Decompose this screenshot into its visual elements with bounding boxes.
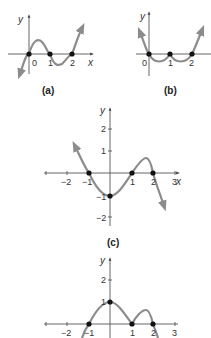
tick-label: 3: [172, 328, 177, 338]
tick-label: 1: [130, 328, 135, 338]
graph-a: 0 1 2 x y (a): [8, 14, 94, 96]
point: [107, 193, 112, 198]
tick-label: 2: [189, 58, 194, 68]
panel-label-c: (c): [107, 237, 119, 248]
tick-label: −2: [61, 177, 71, 187]
point: [107, 299, 112, 304]
tick-label: 2: [70, 58, 75, 68]
point: [150, 170, 155, 175]
tick-label: −2: [61, 328, 71, 338]
y-axis-label: y: [17, 14, 24, 25]
tick-label: 2: [101, 124, 106, 134]
point: [167, 51, 172, 56]
tick-label: −1: [96, 192, 106, 202]
y-axis-label: y: [99, 255, 106, 266]
y-axis-label: y: [139, 11, 146, 22]
point: [86, 170, 91, 175]
tick-label: 2: [101, 275, 106, 285]
point: [129, 321, 134, 326]
point: [26, 51, 31, 56]
tick-label: −1: [84, 328, 94, 338]
point: [86, 321, 91, 326]
point: [129, 170, 134, 175]
panel-label-a: (a): [42, 85, 54, 96]
point: [69, 51, 74, 56]
tick-label: 1: [48, 58, 53, 68]
tick-label: 2: [151, 328, 156, 338]
point: [47, 51, 52, 56]
tick-label: −1: [82, 177, 92, 187]
point: [150, 321, 155, 326]
y-axis-label: y: [99, 105, 106, 116]
point: [189, 51, 194, 56]
tick-label: 1: [168, 58, 173, 68]
tick-label: 1: [101, 146, 106, 156]
graph-c: −2 −1 1 2 3 x 2 1 −1 −2 y (c): [44, 105, 182, 248]
figure: 0 1 2 x y (a) 0 1 2 y (b) −2 −1 1: [0, 0, 211, 338]
tick-label: 1: [101, 297, 106, 307]
graph-b: 0 1 2 y (b): [136, 11, 211, 96]
tick-label: 2: [151, 177, 156, 187]
tick-label: 1: [130, 177, 135, 187]
curve-c: [75, 146, 164, 206]
tick-label: 0: [32, 58, 37, 68]
panel-label-b: (b): [164, 85, 177, 96]
point: [146, 51, 151, 56]
graph-d: −2 −1 1 2 3 2 1 y: [44, 255, 178, 338]
x-axis-label: x: [175, 176, 182, 187]
tick-label: −2: [96, 213, 106, 223]
x-axis-label: x: [87, 57, 94, 68]
tick-label: 0: [142, 58, 147, 68]
